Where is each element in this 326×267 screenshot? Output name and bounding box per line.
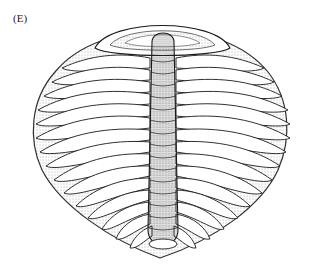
axial-lobe [148, 33, 178, 249]
fossil-illustration [0, 0, 326, 267]
